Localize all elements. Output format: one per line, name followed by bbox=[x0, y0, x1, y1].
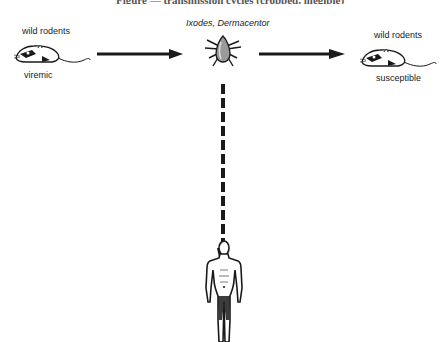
source-host-status: viremic bbox=[24, 70, 53, 80]
rodent-icon bbox=[358, 42, 438, 72]
arrow-vector-to-target bbox=[257, 48, 347, 60]
diagram-title-cropped: Figure — transmission cycles (cropped, i… bbox=[95, 0, 365, 4]
target-host-status: susceptible bbox=[376, 73, 421, 83]
human-figure-icon bbox=[200, 240, 248, 342]
source-host-label: wild rodents bbox=[22, 26, 70, 36]
tick-icon bbox=[203, 34, 243, 70]
rodent-icon bbox=[12, 38, 92, 68]
target-host-label: wild rodents bbox=[374, 30, 422, 40]
vector-label: Ixodes, Dermacentor bbox=[186, 18, 270, 28]
arrow-source-to-vector bbox=[95, 48, 185, 60]
